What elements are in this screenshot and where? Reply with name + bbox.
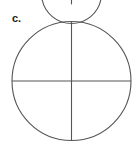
figure-label: c. [12, 13, 21, 24]
figure-page: c. [0, 0, 140, 146]
cut-off-arc-fragment [42, 0, 101, 24]
